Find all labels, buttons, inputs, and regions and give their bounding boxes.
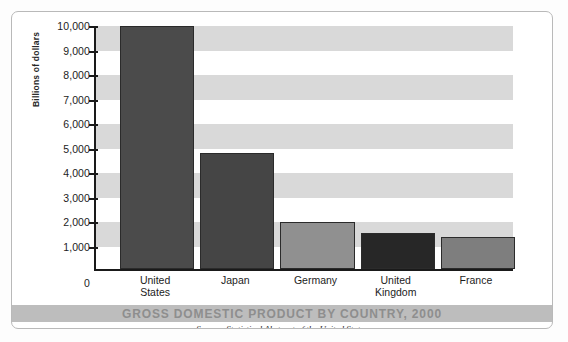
y-tick-mark [89, 51, 98, 53]
x-category-label: UnitedKingdom [359, 275, 433, 298]
y-tick-mark [89, 222, 98, 224]
y-tick-mark [89, 149, 98, 151]
x-category-label: France [439, 275, 513, 287]
y-tick-mark [89, 26, 98, 28]
x-category-label: UnitedStates [118, 275, 192, 298]
plot-area [94, 26, 513, 271]
y-tick-label: 8,000 [63, 69, 90, 81]
y-tick-mark [89, 124, 98, 126]
y-tick-mark [89, 100, 98, 102]
gdp-bar-chart-figure: Billions of dollars 10,0009,0008,0007,00… [0, 0, 568, 342]
source-caption: Source: Statistical Abstract of the Unit… [12, 324, 552, 329]
x-category-label: Germany [278, 275, 352, 287]
y-tick-label: 1,000 [63, 241, 90, 253]
y-tick-mark [89, 198, 98, 200]
y-tick-label: 4,000 [63, 167, 90, 179]
y-tick-mark [89, 247, 98, 249]
y-tick-mark [89, 173, 98, 175]
y-tick-label: 10,000 [57, 20, 90, 32]
y-tick-label: 5,000 [63, 143, 90, 155]
y-tick-label: 7,000 [63, 94, 90, 106]
chart-title-band: GROSS DOMESTIC PRODUCT BY COUNTRY, 2000 [12, 305, 552, 322]
y-tick-label: 3,000 [63, 192, 90, 204]
chart-frame: Billions of dollars 10,0009,0008,0007,00… [11, 11, 553, 329]
y-tick-label: 6,000 [63, 118, 90, 130]
y-axis-tick-labels: 10,0009,0008,0007,0006,0005,0004,0003,00… [34, 26, 90, 271]
x-axis-category-labels: UnitedStatesJapanGermanyUnitedKingdomFra… [94, 275, 513, 305]
y-tick-label: 0 [84, 277, 90, 289]
x-category-label: Japan [198, 275, 272, 287]
y-tick-label: 9,000 [63, 45, 90, 57]
chart-title: GROSS DOMESTIC PRODUCT BY COUNTRY, 2000 [122, 307, 442, 321]
y-axis-tick-marks [96, 26, 513, 269]
y-tick-label: 2,000 [63, 216, 90, 228]
y-tick-mark [89, 75, 98, 77]
